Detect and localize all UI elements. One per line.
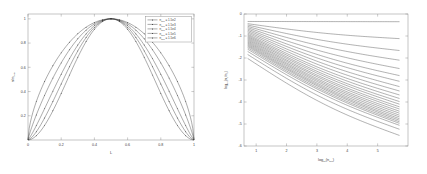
- right-axes-frame: [244, 14, 408, 146]
- left-curve-4-marker: [144, 50, 145, 51]
- left-curve-3-marker: [185, 125, 186, 126]
- left-curve-3-marker: [36, 125, 37, 126]
- left-curve-5-marker: [77, 57, 78, 58]
- left-curve-3-marker: [127, 25, 128, 26]
- left-curve-1-marker: [77, 33, 78, 34]
- left-y-axis-title: n/npeak: [10, 71, 15, 82]
- right-y-tick-label: -1: [238, 34, 241, 38]
- left-y-tick-labels: 0.20.40.60.81: [21, 17, 26, 118]
- left-curve-5-marker: [152, 75, 153, 76]
- left-y-tick-label: 0.8: [21, 41, 26, 45]
- left-curve-2-marker: [86, 30, 87, 31]
- left-plot-svg: 00.20.40.60.81 0.20.40.60.81 L n/npeak n…: [0, 0, 214, 174]
- left-legend-marker-2: [152, 24, 153, 25]
- right-plot-svg: 12345 0-1-2-3-4-5-6 log10(nsep) log10(nc…: [214, 0, 427, 174]
- right-x-tick-label: 3: [315, 149, 317, 153]
- left-legend-marker-4: [152, 33, 153, 34]
- left-curve-2-marker: [44, 95, 45, 96]
- left-curve-5-marker: [169, 110, 170, 111]
- left-curve-5-marker: [127, 29, 128, 30]
- left-curve-4-marker: [169, 101, 170, 102]
- left-curve-3-marker: [177, 108, 178, 109]
- left-curve-2-marker: [144, 38, 145, 39]
- left-x-tick-label: 0.2: [59, 143, 64, 147]
- left-x-tick-label: 0: [27, 143, 29, 147]
- left-curve-5-marker: [144, 57, 145, 58]
- left-legend-marker-3: [152, 28, 153, 29]
- left-curve-4-marker: [77, 50, 78, 51]
- left-curve-4-marker: [94, 27, 95, 28]
- left-curve-2-marker: [77, 38, 78, 39]
- left-curve-4-marker: [86, 37, 87, 38]
- left-curve-2-marker: [94, 23, 95, 24]
- left-curve-2-marker: [127, 23, 128, 24]
- left-curve-4-marker: [160, 83, 161, 84]
- svg-text:n/npeak: n/npeak: [10, 71, 15, 82]
- right-x-tick-label: 5: [376, 149, 378, 153]
- svg-text:log10(nc/n0): log10(nc/n0): [223, 70, 228, 89]
- right-x-tick-label: 1: [255, 149, 257, 153]
- right-y-tick-label: -5: [238, 122, 241, 126]
- left-y-tick-label: 0.2: [21, 114, 26, 118]
- left-curve-4-marker: [185, 131, 186, 132]
- left-curve-4-marker: [127, 27, 128, 28]
- right-x-tick-label: 2: [285, 149, 287, 153]
- left-curve-5-marker: [185, 135, 186, 136]
- left-curve-1-marker: [160, 52, 161, 53]
- left-curve-2-marker: [52, 78, 53, 79]
- left-x-tick-labels: 00.20.40.60.81: [27, 143, 195, 147]
- left-curve-4-marker: [69, 66, 70, 67]
- left-x-tick-label: 0.8: [158, 143, 163, 147]
- left-curve-5-marker: [177, 125, 178, 126]
- left-curve-4-marker: [177, 117, 178, 118]
- left-legend-marker-1: [152, 19, 153, 20]
- left-curve-5-marker: [111, 18, 112, 19]
- left-curve-5-marker: [61, 93, 62, 94]
- left-curve-5-marker: [44, 125, 45, 126]
- left-curve-1-marker: [144, 33, 145, 34]
- left-curve-1-marker: [169, 65, 170, 66]
- right-y-tick-label: -6: [238, 144, 241, 148]
- left-panel: 00.20.40.60.81 0.20.40.60.81 L n/npeak n…: [0, 0, 214, 174]
- left-curve-2-marker: [185, 115, 186, 116]
- right-y-tick-labels: 0-1-2-3-4-5-6: [238, 12, 241, 148]
- left-curve-3-marker: [69, 58, 70, 59]
- left-curve-1-marker: [61, 52, 62, 53]
- right-y-tick-label: -3: [238, 78, 241, 82]
- left-y-tick-label: 0.6: [21, 66, 26, 70]
- left-curve-4-marker: [61, 83, 62, 84]
- left-curve-2-marker: [69, 49, 70, 50]
- left-curve-4-marker: [52, 101, 53, 102]
- left-curve-1-marker: [52, 65, 53, 66]
- left-curve-5-marker: [102, 21, 103, 22]
- left-curve-1-marker: [127, 22, 128, 23]
- left-curve-1-marker: [86, 27, 87, 28]
- right-y-tick-label: 0: [239, 12, 241, 16]
- left-curve-4-marker: [152, 66, 153, 67]
- right-x-axis-title: log10(nsep): [318, 157, 335, 162]
- left-y-tick-label: 1: [24, 17, 26, 21]
- left-curve-3-marker: [169, 91, 170, 92]
- left-curve-2-marker: [169, 78, 170, 79]
- left-curve-2-marker: [177, 95, 178, 96]
- right-y-axis-title: log10(nc/n0): [223, 70, 228, 89]
- left-curve-3-marker: [77, 45, 78, 46]
- left-curve-5-marker: [135, 41, 136, 42]
- left-curve-1-marker: [185, 101, 186, 102]
- left-curve-3-marker: [86, 33, 87, 34]
- left-curve-1-marker: [36, 101, 37, 102]
- left-curve-2-marker: [36, 115, 37, 116]
- left-curve-5-marker: [86, 41, 87, 42]
- right-y-tick-label: -2: [238, 56, 241, 60]
- left-curve-3-marker: [44, 108, 45, 109]
- left-curve-5-marker: [69, 75, 70, 76]
- left-legend-marker-5: [152, 37, 153, 38]
- figure-container: 00.20.40.60.81 0.20.40.60.81 L n/npeak n…: [0, 0, 427, 174]
- left-curve-4-marker: [36, 131, 37, 132]
- left-curve-3-marker: [160, 74, 161, 75]
- left-curve-1-marker: [94, 22, 95, 23]
- right-x-tick-label: 4: [346, 149, 348, 153]
- left-curve-2-marker: [160, 62, 161, 63]
- left-curve-4-marker: [135, 37, 136, 38]
- left-curve-3-marker: [61, 74, 62, 75]
